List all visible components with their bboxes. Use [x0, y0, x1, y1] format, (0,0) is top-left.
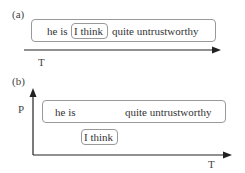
word-i-think-b: I think	[84, 132, 113, 143]
word-he-is-b: he is	[55, 107, 75, 118]
word-he-is: he is	[47, 26, 67, 37]
arrowhead-icon	[212, 47, 221, 54]
word-quite-untrustworthy-b: quite untrustworthy	[125, 107, 211, 118]
word-i-think: I think	[74, 26, 103, 37]
panel-b-label: (b)	[12, 76, 25, 87]
axis-label-t-a: T	[38, 57, 45, 68]
axis-label-t-b: T	[208, 159, 215, 170]
panel-a-label: (a)	[12, 9, 24, 20]
word-quite-untrustworthy: quite untrustworthy	[112, 26, 198, 37]
arrowhead-icon	[30, 88, 37, 97]
axis-label-p: P	[18, 104, 24, 115]
arrowhead-icon	[223, 152, 232, 159]
